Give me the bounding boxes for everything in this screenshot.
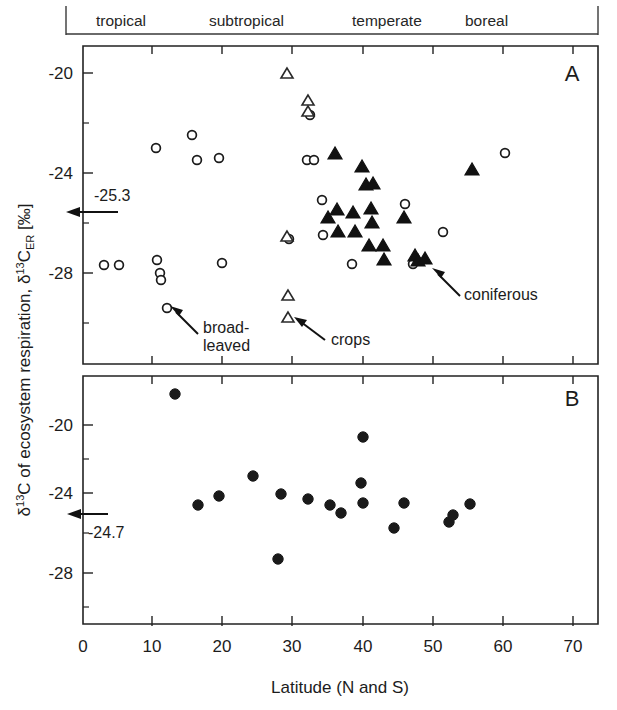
panel-b: -20 -24 -28 B -24.7 [48,376,598,626]
panel-a-reference-marker: -25.3 [66,187,131,217]
series-broad-leaved-markers [100,111,510,313]
annotation-broad-leaved: broad- leaved [170,306,250,354]
xtick-label-5: 50 [424,637,443,656]
band-label-temperate: temperate [352,12,422,29]
xtick-label-1: 10 [143,637,162,656]
annotation-crops: crops [294,317,370,348]
xtick-label-2: 20 [213,637,232,656]
panel-a-x-ticks-bottom [152,356,573,364]
xtick-label-3: 30 [283,637,302,656]
scatter-figure: tropical subtropical temperate boreal [0,0,617,710]
annotation-coniferous-line-0: coniferous [464,286,538,303]
xtick-label-6: 60 [494,637,513,656]
annotation-coniferous: coniferous [432,268,538,303]
panel-b-frame [83,376,598,624]
panel-a-letter: A [565,61,580,86]
y-axis-title-mid2: C [15,250,34,262]
y-axis-title-delta1: δ [15,507,34,516]
panel-b-y-ticks [83,425,93,607]
series-crops-markers [281,68,314,322]
panel-a-ytick-label-0: -20 [48,64,73,83]
xtick-label-7: 70 [564,637,583,656]
y-axis-title: δ13C of ecosystem respiration, δ13CER [‰… [14,204,36,517]
panel-a-y-ticks [83,73,93,323]
panel-a: -20 -24 -28 A -25.3 [48,46,598,364]
y-axis-title-sup2: 13 [14,262,26,274]
panel-a-ytick-label-1: -24 [48,164,73,183]
annotation-broad-leaved-line-0: broad- [203,319,249,336]
band-label-tropical: tropical [96,12,146,29]
band-label-subtropical: subtropical [209,12,284,29]
panel-b-letter: B [565,386,580,411]
y-axis-title-tail: [‰] [15,204,34,235]
y-axis-title-sub: ER [24,235,36,250]
panel-b-x-ticks-top [152,376,573,384]
panel-a-ytick-label-2: -28 [48,264,73,283]
xtick-label-4: 40 [354,637,373,656]
y-axis-title-mid: C of ecosystem respiration, δ [15,275,34,495]
panel-b-ytick-label-2: -28 [48,564,73,583]
panel-b-ytick-label-0: -20 [48,416,73,435]
panel-b-reference-marker: -24.7 [67,509,125,541]
figure-root: tropical subtropical temperate boreal [0,0,617,710]
y-axis-title-sup1: 13 [14,495,26,507]
y-axis-title-group: δ13C of ecosystem respiration, δ13CER [‰… [14,204,36,517]
climate-band-group: tropical subtropical temperate boreal [66,6,598,35]
series-coniferous-markers [321,147,479,266]
panel-a-reference-label: -25.3 [94,187,131,204]
x-tick-labels: 0 10 20 30 40 50 60 70 [78,637,582,656]
panel-b-ytick-label-1: -24 [48,484,73,503]
band-label-boreal: boreal [465,12,508,29]
annotation-crops-line-0: crops [331,331,370,348]
panel-a-frame [83,46,598,364]
series-site-means-markers [170,389,475,564]
xtick-label-0: 0 [78,637,87,656]
panel-a-x-ticks-top [152,46,573,54]
x-axis-title: Latitude (N and S) [271,678,409,697]
annotation-broad-leaved-line-1: leaved [203,337,250,354]
panel-b-reference-label: -24.7 [88,524,125,541]
